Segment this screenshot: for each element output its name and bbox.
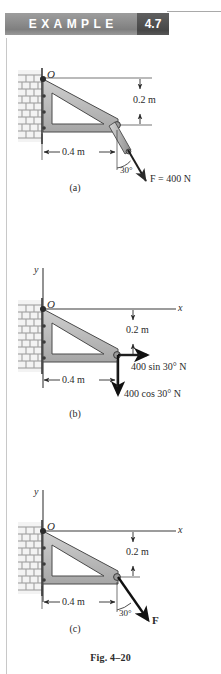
point-label-o-a: O (47, 68, 55, 80)
panel-sublabel-a: (a) (0, 182, 150, 193)
bolt-icon (42, 578, 46, 582)
dim-label-horizontal-b: 0.4 m (62, 374, 85, 385)
figure-b-drawing (0, 262, 221, 412)
angle-label-c: 30° (119, 608, 132, 618)
point-label-o-b: O (47, 298, 55, 310)
dim-label-vertical-a: 0.2 m (133, 94, 156, 105)
textbook-page: EXAMPLE 4.7 (0, 0, 221, 674)
panel-sublabel-c: (c) (0, 623, 150, 634)
bolt-icon (42, 546, 46, 550)
figure-caption: Fig. 4–20 (0, 652, 221, 663)
example-header: EXAMPLE 4.7 (5, 13, 185, 35)
bolt-icon (42, 110, 46, 114)
bolt-icon (42, 94, 46, 98)
figure-c-drawing (0, 484, 221, 639)
pin-o (40, 76, 46, 82)
bolt-icon (42, 562, 46, 566)
wall-hatching-icon (18, 70, 42, 142)
wall-hatching-icon (18, 522, 42, 594)
pin-o (40, 528, 46, 534)
figure-panel-b: y x O 0.2 m 0.4 m 400 sin 30° N 400 cos … (0, 262, 221, 412)
example-label: EXAMPLE (5, 13, 137, 35)
force-label-c: F (152, 614, 159, 626)
point-label-o-c: O (47, 520, 55, 532)
panel-sublabel-b: (b) (0, 408, 150, 419)
bolt-icon (42, 340, 46, 344)
axis-label-x-c: x (178, 524, 182, 535)
dim-label-vertical-b: 0.2 m (126, 324, 149, 335)
dim-label-horizontal-a: 0.4 m (62, 146, 85, 157)
wall-hatching-icon (18, 300, 42, 372)
axis-label-y-c: y (34, 486, 38, 497)
bolt-icon (42, 356, 46, 360)
force-label-a: F = 400 N (150, 173, 191, 184)
bolt-icon (42, 324, 46, 328)
dim-label-horizontal-c: 0.4 m (62, 596, 85, 607)
pin-o (40, 306, 46, 312)
header-rule (167, 11, 221, 12)
figure-a-drawing (0, 62, 221, 190)
dim-label-vertical-c: 0.2 m (126, 546, 149, 557)
figure-panel-a: 0.2 m 0.4 m O 30° F = 400 N (a) (0, 62, 221, 190)
axis-label-y-b: y (34, 264, 38, 275)
angle-label-a: 30° (120, 165, 133, 175)
component-label-y-b: 400 cos 30° N (124, 388, 181, 399)
bolt-icon (42, 126, 46, 130)
figure-panel-c: y x O 0.2 m 0.4 m 30° F (c) (0, 484, 221, 639)
axis-label-x-b: x (178, 302, 182, 313)
component-label-x-b: 400 sin 30° N (131, 361, 186, 372)
example-number-badge: 4.7 (137, 13, 169, 35)
